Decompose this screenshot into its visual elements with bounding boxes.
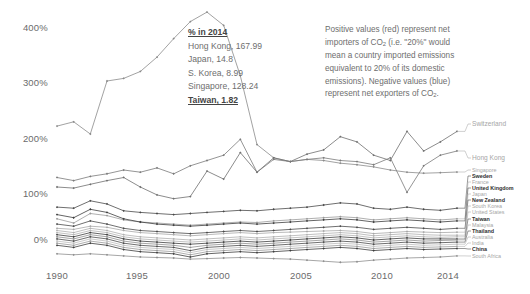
series-marker: [356, 219, 358, 221]
series-marker: [89, 236, 91, 238]
description-line-3: mean a country imported emissions: [325, 50, 510, 63]
series-marker: [339, 242, 341, 244]
series-marker: [289, 245, 291, 247]
series-marker: [206, 242, 208, 244]
series-marker: [156, 256, 158, 258]
series-marker: [306, 218, 308, 220]
series-marker: [189, 232, 191, 234]
series-marker: [139, 251, 141, 253]
series-marker: [406, 206, 408, 208]
series-marker: [156, 237, 158, 239]
annotation-line-hong-kong: Hong Kong, 167.99: [188, 40, 262, 54]
series-marker: [389, 220, 391, 222]
series-marker: [256, 239, 258, 241]
series-marker: [406, 219, 408, 221]
series-marker: [173, 242, 175, 244]
series-marker: [389, 169, 391, 171]
series-marker: [373, 243, 375, 245]
series-marker: [239, 229, 241, 231]
series-marker: [339, 234, 341, 236]
series-marker: [173, 213, 175, 215]
series-marker: [289, 258, 291, 260]
series-marker: [173, 251, 175, 253]
series-marker: [189, 254, 191, 256]
series-marker: [373, 221, 375, 223]
series-marker: [289, 219, 291, 221]
series-marker: [123, 238, 125, 240]
series-marker: [223, 249, 225, 251]
series-marker: [439, 244, 441, 246]
series-marker: [106, 179, 108, 181]
series-marker: [89, 242, 91, 244]
series-marker: [239, 248, 241, 250]
series-marker: [306, 158, 308, 160]
series-marker: [289, 160, 291, 162]
series-marker: [89, 183, 91, 185]
series-marker: [56, 253, 58, 255]
series-marker: [239, 231, 241, 233]
series-marker: [389, 234, 391, 236]
series-marker: [323, 260, 325, 262]
series-marker: [206, 238, 208, 240]
series-marker: [339, 216, 341, 218]
series-marker: [256, 237, 258, 239]
series-marker: [289, 231, 291, 233]
series-marker: [139, 246, 141, 248]
series-marker: [406, 239, 408, 241]
series-marker: [356, 164, 358, 166]
annotation-line-taiwan: Taiwan, 1.82: [188, 94, 262, 108]
leader-line: [457, 124, 471, 131]
series-marker: [89, 240, 91, 242]
series-marker: [323, 247, 325, 249]
series-marker: [306, 244, 308, 246]
series-marker: [389, 248, 391, 250]
description-line-1: Positive values (red) represent net: [325, 24, 510, 37]
series-marker: [306, 242, 308, 244]
series-marker: [223, 239, 225, 241]
series-marker: [189, 212, 191, 214]
series-marker: [156, 243, 158, 245]
leader-line: [457, 200, 471, 228]
series-marker: [439, 231, 441, 233]
series-marker: [406, 232, 408, 234]
series-marker: [156, 239, 158, 241]
series-marker: [89, 238, 91, 240]
series-marker: [106, 254, 108, 256]
series-marker: [323, 239, 325, 241]
series-marker: [356, 232, 358, 234]
series-marker: [106, 244, 108, 246]
series-marker: [289, 243, 291, 245]
series-marker: [389, 227, 391, 229]
series-marker: [389, 218, 391, 220]
series-marker: [173, 173, 175, 175]
series-marker: [223, 210, 225, 212]
series-marker: [289, 237, 291, 239]
series-marker: [239, 244, 241, 246]
series-marker: [373, 164, 375, 166]
series-marker: [239, 209, 241, 211]
series-marker: [356, 247, 358, 249]
series-marker: [356, 235, 358, 237]
series-marker: [156, 232, 158, 234]
series-marker: [339, 218, 341, 220]
series-marker: [56, 176, 58, 178]
series-marker: [56, 234, 58, 236]
annotation-percent-2014: % in 2014 Hong Kong, 167.99 Japan, 14.8 …: [188, 26, 262, 108]
series-marker: [273, 246, 275, 248]
series-marker: [239, 256, 241, 258]
leader-line: [457, 170, 471, 172]
annotation-line-s-korea: S. Korea, 8.99: [188, 67, 262, 81]
leader-line: [457, 182, 471, 219]
series-marker: [306, 240, 308, 242]
series-marker: [73, 254, 75, 256]
series-marker: [356, 237, 358, 239]
series-marker: [389, 238, 391, 240]
series-marker: [123, 240, 125, 242]
series-marker: [123, 255, 125, 257]
series-marker: [89, 234, 91, 236]
series-marker: [173, 253, 175, 255]
series-marker: [139, 236, 141, 238]
series-marker: [223, 230, 225, 232]
series-marker: [56, 213, 58, 215]
series-marker: [273, 231, 275, 233]
